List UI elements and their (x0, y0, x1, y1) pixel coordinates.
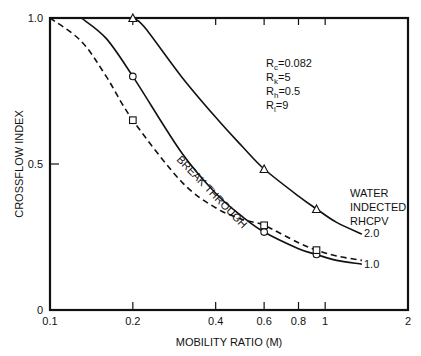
x-tick-label: 0.1 (42, 315, 57, 327)
x-tick-label: 0.4 (208, 315, 223, 327)
x-tick-label: 0.2 (125, 315, 140, 327)
curve-1-0 (81, 18, 362, 264)
curve-break-through (50, 18, 362, 260)
square-marker-icon (130, 117, 137, 124)
parameter-line: Rc=0.082 (266, 57, 312, 72)
plot-border (50, 18, 408, 310)
x-axis-title: MOBILITY RATIO (M) (176, 336, 283, 348)
circle-marker-icon (261, 229, 268, 236)
y-axis-title: CROSSFLOW INDEX (13, 110, 25, 218)
group-label-line: WATER (350, 187, 389, 199)
breakthrough-label: BREAK THROUGH (175, 153, 250, 230)
x-tick-label: 2 (405, 315, 411, 327)
water-injected-label: WATERINDECTEDRHCPV (350, 187, 406, 227)
curve-2-0 (133, 18, 362, 234)
square-marker-icon (261, 222, 268, 229)
plot-frame (50, 18, 408, 310)
square-marker-icon (313, 247, 320, 254)
group-label-line: INDECTED (350, 201, 406, 213)
parameter-annotation: Rc=0.082Rk=5Rh=0.5Rl=9 (266, 57, 312, 114)
data-curves (50, 18, 362, 264)
x-tick-label: 0.8 (291, 315, 306, 327)
y-axis-ticks: 00.51.0 (28, 12, 59, 316)
curve-label-1-0: 1.0 (364, 258, 379, 270)
y-tick-label: 0 (37, 304, 43, 316)
x-axis-ticks: 0.10.20.40.60.812 (42, 18, 411, 327)
x-tick-label: 0.6 (256, 315, 271, 327)
x-tick-label: 1 (322, 315, 328, 327)
parameter-line: Rh=0.5 (266, 85, 300, 100)
y-tick-label: 1.0 (28, 12, 43, 24)
group-label-line: RHCPV (350, 215, 389, 227)
crossflow-chart: 0.10.20.40.60.812 00.51.0 MOBILITY RATIO… (0, 0, 421, 356)
parameter-line: Rl=9 (266, 99, 288, 114)
curve-label-2-0: 2.0 (364, 227, 379, 239)
parameter-line: Rk=5 (266, 71, 291, 86)
data-markers (129, 14, 321, 258)
circle-marker-icon (130, 73, 137, 80)
y-tick-label: 0.5 (28, 158, 43, 170)
